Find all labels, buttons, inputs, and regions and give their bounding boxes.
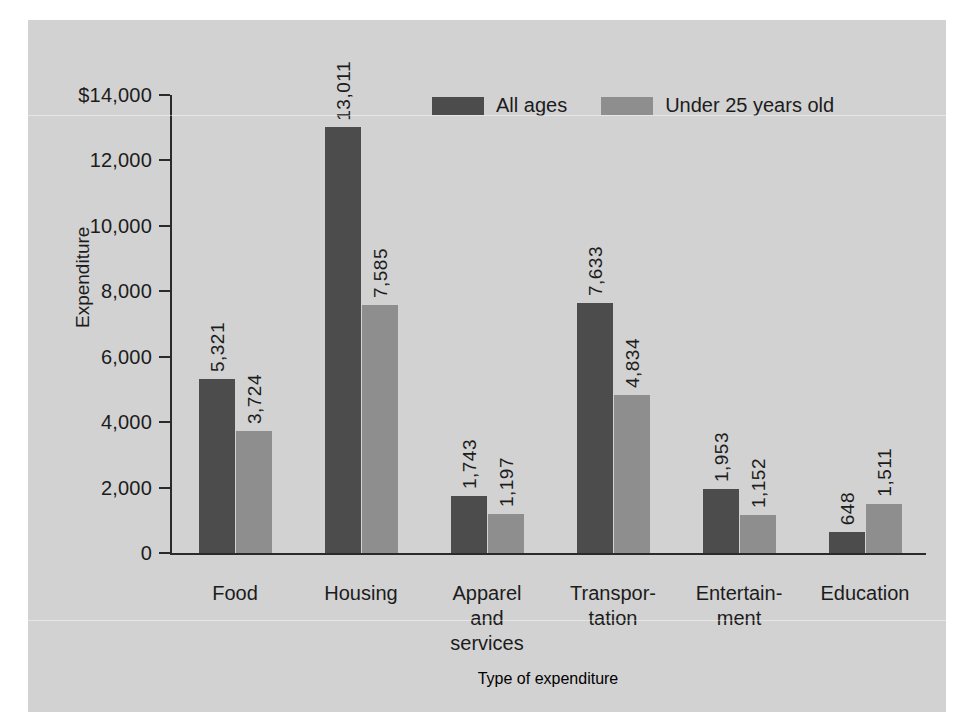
y-tick-mark [159,159,170,161]
scan-artifact [28,115,946,116]
x-axis-label-line: Food [172,581,298,606]
bar[interactable]: 1,511 [866,504,902,553]
bar-value-label: 5,321 [207,322,226,372]
legend-swatch [601,97,653,115]
bar-group: 1,9531,152 [703,95,776,553]
x-axis-label: Entertain-ment [676,581,802,631]
bar[interactable]: 4,834 [614,395,650,553]
y-tick-label: 10,000 [90,214,152,237]
bar[interactable]: 1,197 [488,514,524,553]
y-tick-mark [159,421,170,423]
x-axis-line [170,553,926,555]
x-axis-label: Food [172,581,298,606]
bar-group: 13,0117,585 [325,95,398,553]
x-axis-label-line: Transpor- [550,581,676,606]
plot-area: 02,0004,0006,0008,00010,00012,000$14,000… [170,95,926,573]
y-tick-label: $14,000 [78,84,152,107]
legend-label: All ages [496,94,567,117]
bar[interactable]: 1,953 [703,489,739,553]
bar[interactable]: 5,321 [199,379,235,553]
x-axis-label-line: Entertain- [676,581,802,606]
bar-value-label: 7,585 [370,248,389,298]
x-axis-label-line: and [424,606,550,631]
bar[interactable]: 7,585 [362,305,398,553]
x-axis-label-line: Housing [298,581,424,606]
bar-value-label: 3,724 [244,374,263,424]
bar-value-label: 1,953 [711,432,730,482]
x-axis-label-line: ment [676,606,802,631]
bar-value-label: 13,011 [333,61,352,121]
bar[interactable]: 648 [829,532,865,553]
x-axis-category-labels: FoodHousingApparelandservicesTranspor-ta… [172,581,928,671]
y-tick-label: 4,000 [101,411,152,434]
bar[interactable]: 3,724 [236,431,272,553]
bar[interactable]: 1,152 [740,515,776,553]
y-tick-mark [159,356,170,358]
bar-value-label: 1,197 [496,457,515,507]
legend-swatch [432,97,484,115]
y-tick-mark [159,552,170,554]
bar[interactable]: 13,011 [325,127,361,553]
y-tick-label: 0 [141,542,152,565]
y-tick-label: 8,000 [101,280,152,303]
y-tick-label: 2,000 [101,476,152,499]
bar-value-label: 1,743 [459,439,478,489]
x-axis-label: Transpor-tation [550,581,676,631]
legend-item[interactable]: All ages [432,94,567,117]
bar[interactable]: 7,633 [577,303,613,553]
y-tick-mark [159,225,170,227]
x-axis-label: Apparelandservices [424,581,550,656]
x-axis-label: Education [802,581,928,606]
x-axis-title-wrap: Type of expenditure [170,670,926,688]
bar-group: 6481,511 [829,95,902,553]
y-tick-mark [159,487,170,489]
bar-value-label: 1,511 [874,448,893,497]
x-axis-label-line: Education [802,581,928,606]
chart-legend: All agesUnder 25 years old [432,94,834,117]
y-axis-title: Expenditure [72,227,94,328]
x-axis-label: Housing [298,581,424,606]
y-tick-label: 6,000 [101,345,152,368]
x-axis-label-line: tation [550,606,676,631]
bar[interactable]: 1,743 [451,496,487,553]
y-tick-mark [159,290,170,292]
chart-panel: 02,0004,0006,0008,00010,00012,000$14,000… [28,20,946,712]
bar-group: 1,7431,197 [451,95,524,553]
legend-item[interactable]: Under 25 years old [601,94,834,117]
bar-group: 7,6334,834 [577,95,650,553]
bar-value-label: 1,152 [748,458,767,508]
x-axis-title: Type of expenditure [478,670,619,687]
y-tick-label: 12,000 [90,149,152,172]
scan-artifact [28,620,946,621]
bar-value-label: 7,633 [585,246,604,296]
bar-group: 5,3213,724 [199,95,272,553]
x-axis-label-line: Apparel [424,581,550,606]
bar-groups: 5,3213,72413,0117,5851,7431,1977,6334,83… [172,95,926,553]
x-axis-label-line: services [424,631,550,656]
bar-value-label: 4,834 [622,338,641,388]
legend-label: Under 25 years old [665,94,834,117]
bar-value-label: 648 [837,492,856,525]
y-tick-mark [159,94,170,96]
